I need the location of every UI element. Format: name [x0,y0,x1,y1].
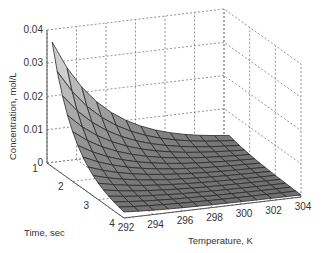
z-tick-label: 0 [37,157,43,168]
y-tick-label: 2 [58,181,64,192]
y-tick-label: 1 [32,163,38,174]
x-tick-label: 292 [118,222,135,233]
z-tick-label: 0.01 [24,124,44,135]
y-tick-label: 4 [109,218,115,229]
x-tick-label: 304 [295,201,312,212]
x-axis-label: Temperature, K [188,235,254,246]
y-axis-label: Time, sec [24,227,65,238]
x-tick-label: 296 [177,215,194,226]
x-tick-label: 298 [206,212,223,223]
y-tick-label: 3 [84,200,90,211]
z-axis-label: Concentration, mol/L [7,72,18,160]
x-tick-label: 294 [147,219,164,230]
surface-mesh [52,42,301,212]
x-tick-label: 302 [265,205,282,216]
z-tick-label: 0.03 [24,57,44,68]
surface-plot: 00.010.020.030.0429229429629830030230412… [0,0,335,253]
z-tick-label: 0.02 [24,91,44,102]
x-tick-label: 300 [236,208,253,219]
z-tick-label: 0.04 [24,24,44,35]
